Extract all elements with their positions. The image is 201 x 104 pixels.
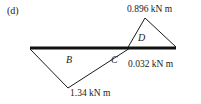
hogging-moment-curve xyxy=(127,18,176,49)
moment-value-peak: 0.896 kN m xyxy=(127,5,172,15)
bending-moment-figure: (d) B C D 0.896 kN m 0.032 kN m 1.34 kN … xyxy=(0,0,201,104)
point-label-d: D xyxy=(138,33,145,43)
moment-value-sag: 1.34 kN m xyxy=(70,89,110,99)
point-label-b: B xyxy=(66,55,72,65)
part-label: (d) xyxy=(7,6,19,16)
point-label-c: C xyxy=(111,55,118,65)
moment-value-end: 0.032 kN m xyxy=(128,60,173,70)
